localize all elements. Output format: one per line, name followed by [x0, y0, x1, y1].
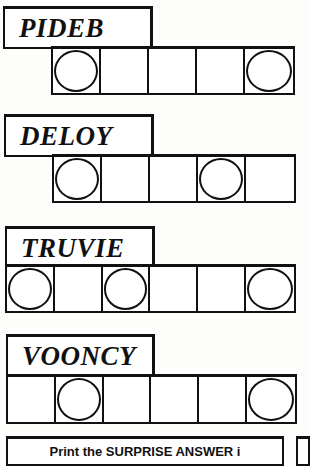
circled-letter-marker: [246, 50, 292, 92]
letter-cell[interactable]: [150, 157, 198, 201]
surprise-answer-box[interactable]: [296, 436, 310, 466]
letter-cell[interactable]: [246, 157, 294, 201]
circled-letter-marker: [247, 268, 293, 310]
scrambled-word-box: VOONCY: [6, 334, 155, 377]
circled-letter-marker: [55, 158, 99, 200]
letter-cell[interactable]: [246, 267, 294, 311]
letter-cell[interactable]: [54, 157, 102, 201]
letter-cell[interactable]: [198, 157, 246, 201]
letter-cell[interactable]: [245, 49, 293, 93]
circled-letter-marker: [8, 268, 52, 310]
scrambled-word: DELOY: [6, 117, 151, 155]
letter-cell[interactable]: [247, 377, 295, 422]
letter-cell[interactable]: [199, 377, 247, 422]
letter-cell[interactable]: [150, 267, 198, 311]
letter-cell[interactable]: [8, 377, 56, 422]
letter-cell[interactable]: [53, 49, 101, 93]
letter-cell[interactable]: [7, 267, 55, 311]
answer-cells: [5, 264, 296, 313]
instruction-text: Print the SURPRISE ANSWER i: [8, 444, 282, 459]
answer-cells: [52, 154, 296, 203]
circled-letter-marker: [248, 378, 294, 421]
letter-cell[interactable]: [151, 377, 199, 422]
circled-letter-marker: [57, 378, 101, 421]
letter-cell[interactable]: [102, 157, 150, 201]
scrambled-word: TRUVIE: [7, 229, 152, 267]
scrambled-word-box: TRUVIE: [5, 226, 155, 269]
answer-cells: [51, 46, 295, 95]
letter-cell[interactable]: [197, 49, 245, 93]
letter-cell[interactable]: [55, 267, 103, 311]
circled-letter-marker: [104, 268, 148, 310]
letter-cell[interactable]: [198, 267, 246, 311]
letter-cell[interactable]: [104, 377, 152, 422]
letter-cell[interactable]: [56, 377, 104, 422]
circled-letter-marker: [199, 158, 243, 200]
answer-cells: [6, 374, 297, 424]
instruction-box: Print the SURPRISE ANSWER i: [6, 436, 284, 466]
scrambled-word-box: DELOY: [4, 114, 154, 157]
letter-cell[interactable]: [103, 267, 151, 311]
scrambled-word: VOONCY: [8, 337, 152, 375]
scrambled-word: PIDEB: [5, 9, 150, 47]
circled-letter-marker: [54, 50, 98, 92]
letter-cell[interactable]: [101, 49, 149, 93]
letter-cell[interactable]: [149, 49, 197, 93]
scrambled-word-box: PIDEB: [3, 6, 153, 49]
